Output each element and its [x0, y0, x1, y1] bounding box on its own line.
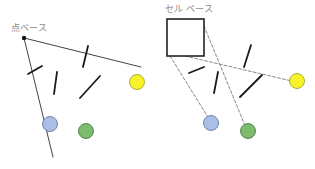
- obstacle-segment: [83, 46, 88, 67]
- cell-based-panel: セル ベース: [165, 4, 305, 139]
- visibility-diagram: 点ベース セル ベース: [0, 0, 315, 169]
- anchor-point: [22, 36, 26, 40]
- obstacle-segment: [244, 45, 251, 67]
- obstacle-segment: [240, 75, 262, 97]
- target-blue-circle: [43, 117, 58, 132]
- target-blue-circle: [204, 116, 219, 131]
- obstacle-segment: [214, 72, 218, 93]
- cell-square: [167, 19, 204, 56]
- target-green-circle: [241, 124, 256, 139]
- dashed-sight-ray: [204, 26, 246, 128]
- dashed-sight-ray: [170, 56, 211, 122]
- target-green-circle: [79, 124, 94, 139]
- sight-ray: [24, 38, 53, 157]
- left-rays: [24, 38, 141, 157]
- obstacle-segment: [54, 72, 57, 94]
- dashed-sight-ray: [185, 56, 296, 82]
- obstacle-segment: [189, 67, 204, 73]
- obstacle-segment: [28, 66, 42, 74]
- target-yellow-circle: [290, 74, 305, 89]
- point-based-label: 点ベース: [11, 23, 47, 33]
- point-based-panel: 点ベース: [11, 23, 145, 157]
- cell-based-label: セル ベース: [165, 4, 213, 14]
- obstacle-segment: [80, 76, 100, 98]
- sight-ray: [24, 38, 141, 67]
- target-yellow-circle: [130, 75, 145, 90]
